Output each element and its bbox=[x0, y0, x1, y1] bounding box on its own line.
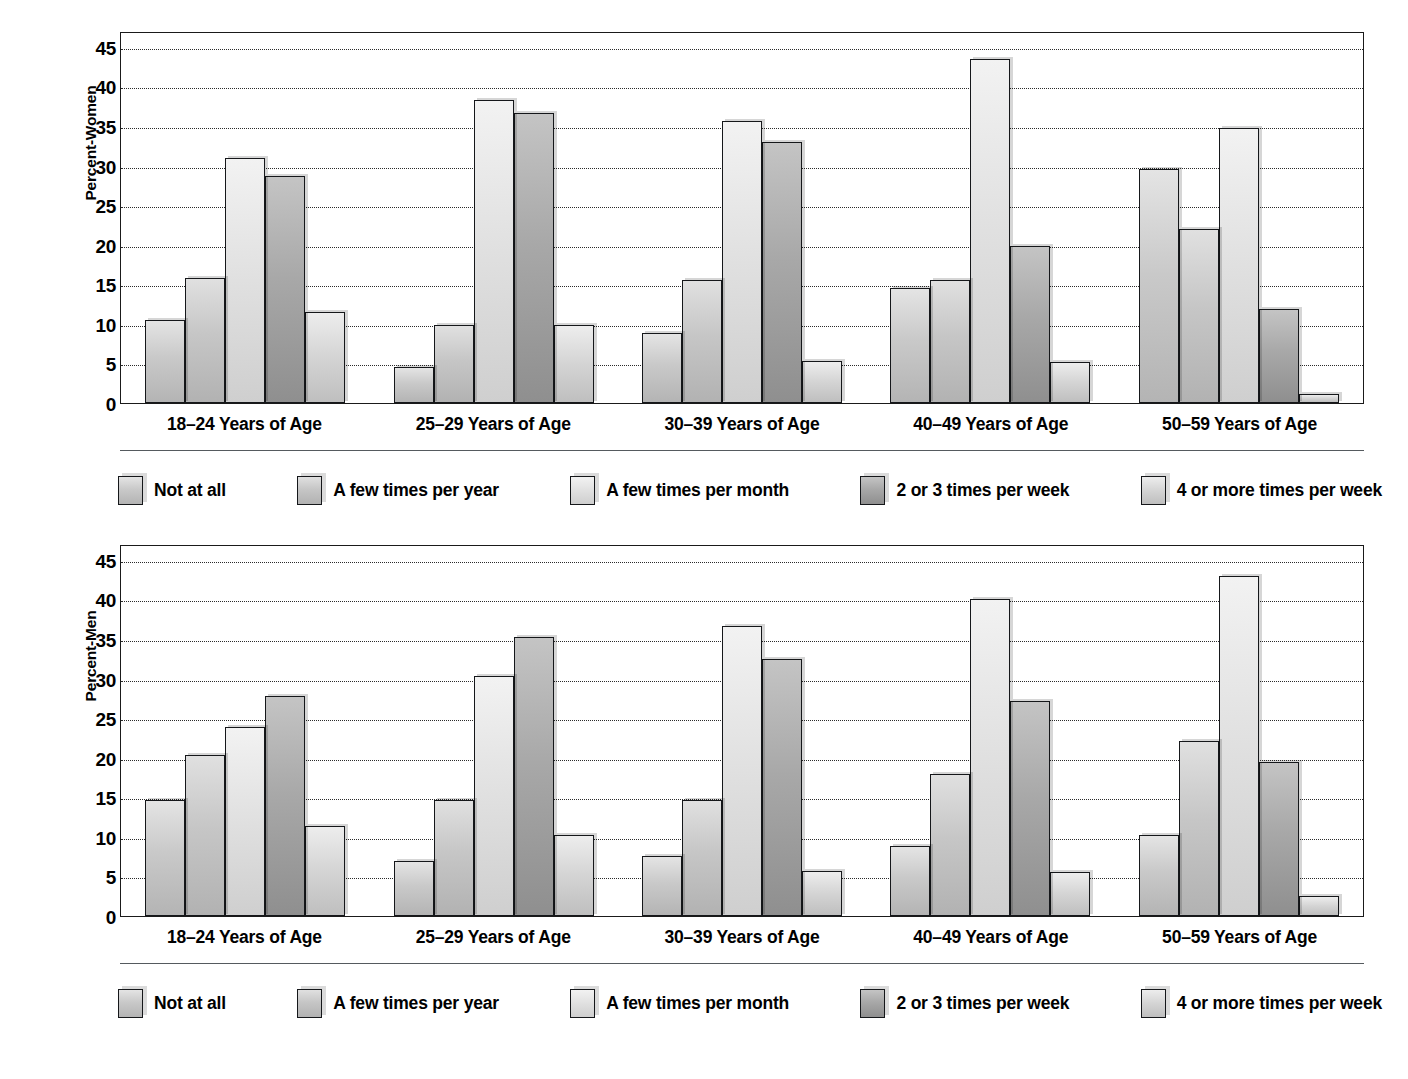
bar[interactable] bbox=[265, 176, 305, 403]
bar[interactable] bbox=[265, 696, 305, 916]
legend-swatch-icon bbox=[118, 989, 143, 1018]
bar[interactable] bbox=[474, 100, 514, 403]
bar[interactable] bbox=[305, 826, 345, 916]
x-tick-label: 40–49 Years of Age bbox=[866, 927, 1115, 948]
bar[interactable] bbox=[1050, 872, 1090, 916]
bar[interactable] bbox=[1259, 762, 1299, 916]
bar-group bbox=[1115, 33, 1363, 403]
bar[interactable] bbox=[1010, 701, 1050, 916]
legend-swatch-icon bbox=[297, 989, 322, 1018]
legend-label: 4 or more times per week bbox=[1177, 480, 1382, 501]
bar[interactable] bbox=[145, 320, 185, 403]
y-tick-label: 30 bbox=[95, 157, 116, 176]
y-tick-label: 40 bbox=[95, 78, 116, 97]
bar[interactable] bbox=[1010, 246, 1050, 403]
legend-label: A few times per year bbox=[333, 993, 499, 1014]
bar[interactable] bbox=[682, 280, 722, 403]
legend-item[interactable]: Not at all bbox=[118, 989, 226, 1018]
bar[interactable] bbox=[930, 774, 970, 916]
bar[interactable] bbox=[514, 113, 554, 403]
legend-item[interactable]: A few times per year bbox=[297, 476, 499, 505]
bar[interactable] bbox=[722, 121, 762, 403]
bar[interactable] bbox=[1299, 394, 1339, 403]
bar[interactable] bbox=[434, 325, 474, 403]
bar[interactable] bbox=[1139, 169, 1179, 403]
legend-label: A few times per month bbox=[606, 480, 789, 501]
y-tick-label: 45 bbox=[95, 551, 116, 570]
bar[interactable] bbox=[1299, 896, 1339, 916]
legend-divider-men bbox=[120, 963, 1364, 964]
bar[interactable] bbox=[762, 142, 802, 403]
legend-item[interactable]: 4 or more times per week bbox=[1141, 476, 1382, 505]
y-tick-label: 35 bbox=[95, 630, 116, 649]
bar[interactable] bbox=[145, 800, 185, 916]
legend-men: Not at allA few times per yearA few time… bbox=[118, 989, 1382, 1018]
bar-group bbox=[866, 546, 1114, 916]
x-tick-label: 40–49 Years of Age bbox=[866, 414, 1115, 435]
bar[interactable] bbox=[930, 280, 970, 403]
bar[interactable] bbox=[185, 278, 225, 403]
x-tick-label: 25–29 Years of Age bbox=[369, 414, 618, 435]
x-tick-label: 50–59 Years of Age bbox=[1115, 927, 1364, 948]
bar[interactable] bbox=[1219, 576, 1259, 916]
legend-item[interactable]: 2 or 3 times per week bbox=[860, 989, 1069, 1018]
bar[interactable] bbox=[802, 361, 842, 403]
legend-item[interactable]: A few times per month bbox=[570, 989, 789, 1018]
bar[interactable] bbox=[554, 325, 594, 403]
bar[interactable] bbox=[394, 861, 434, 916]
bar[interactable] bbox=[722, 626, 762, 916]
legend-label: 2 or 3 times per week bbox=[896, 993, 1069, 1014]
bar[interactable] bbox=[1179, 741, 1219, 916]
x-axis-tick-labels-men: 18–24 Years of Age25–29 Years of Age30–3… bbox=[120, 927, 1364, 948]
bar[interactable] bbox=[225, 158, 265, 403]
bar[interactable] bbox=[305, 312, 345, 403]
x-tick-label: 50–59 Years of Age bbox=[1115, 414, 1364, 435]
bar[interactable] bbox=[185, 755, 225, 916]
legend-divider-women bbox=[120, 450, 1364, 451]
bar[interactable] bbox=[1139, 835, 1179, 916]
y-tick-label: 20 bbox=[95, 236, 116, 255]
bar[interactable] bbox=[890, 846, 930, 916]
bar-group bbox=[866, 33, 1114, 403]
bar[interactable] bbox=[970, 599, 1010, 916]
bar[interactable] bbox=[642, 856, 682, 916]
bar[interactable] bbox=[1219, 128, 1259, 403]
legend-swatch-icon bbox=[860, 476, 885, 505]
plot-frame-men bbox=[120, 545, 1364, 917]
bar[interactable] bbox=[802, 871, 842, 916]
bar[interactable] bbox=[474, 676, 514, 916]
bar[interactable] bbox=[890, 288, 930, 403]
plot-area-women: 051015202530354045 bbox=[72, 32, 1364, 404]
bar[interactable] bbox=[434, 800, 474, 916]
bar[interactable] bbox=[970, 59, 1010, 403]
bar[interactable] bbox=[762, 659, 802, 916]
legend-item[interactable]: A few times per month bbox=[570, 476, 789, 505]
legend-item[interactable]: 2 or 3 times per week bbox=[860, 476, 1069, 505]
plot-area-men: 051015202530354045 bbox=[72, 545, 1364, 917]
bar[interactable] bbox=[225, 727, 265, 916]
y-axis-tick-labels-women: 051015202530354045 bbox=[72, 32, 116, 404]
legend-item[interactable]: A few times per year bbox=[297, 989, 499, 1018]
x-tick-label: 18–24 Years of Age bbox=[120, 927, 369, 948]
y-tick-label: 15 bbox=[95, 789, 116, 808]
bar[interactable] bbox=[554, 835, 594, 916]
bar[interactable] bbox=[1050, 362, 1090, 403]
y-tick-label: 35 bbox=[95, 117, 116, 136]
bar[interactable] bbox=[642, 333, 682, 403]
bar[interactable] bbox=[514, 637, 554, 916]
x-axis-tick-labels-women: 18–24 Years of Age25–29 Years of Age30–3… bbox=[120, 414, 1364, 435]
x-tick-label: 30–39 Years of Age bbox=[618, 414, 867, 435]
legend-swatch-icon bbox=[860, 989, 885, 1018]
bar[interactable] bbox=[1179, 229, 1219, 403]
bar[interactable] bbox=[1259, 309, 1299, 403]
figure-root: Percent-Women 051015202530354045 18–24 Y… bbox=[0, 0, 1408, 1079]
legend-item[interactable]: 4 or more times per week bbox=[1141, 989, 1382, 1018]
legend-item[interactable]: Not at all bbox=[118, 476, 226, 505]
y-tick-label: 15 bbox=[95, 276, 116, 295]
y-tick-label: 30 bbox=[95, 670, 116, 689]
bar-group bbox=[618, 33, 866, 403]
bar-group bbox=[618, 546, 866, 916]
bar[interactable] bbox=[682, 800, 722, 916]
bar[interactable] bbox=[394, 367, 434, 403]
y-tick-label: 20 bbox=[95, 749, 116, 768]
